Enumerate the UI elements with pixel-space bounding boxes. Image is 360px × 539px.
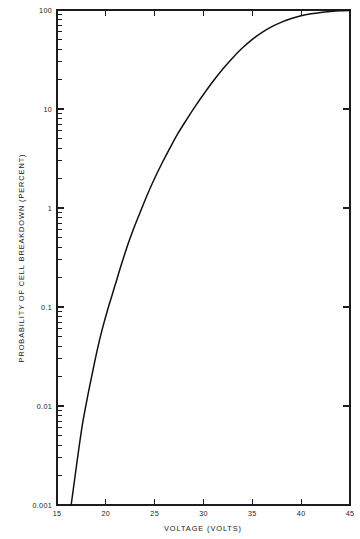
x-axis-ticks [57, 10, 350, 505]
y-axis-ticks [57, 10, 350, 505]
figure-container: 0.0010.010.1110100 15202530354045 VOLTAG… [0, 0, 360, 539]
plot-frame [57, 10, 350, 505]
breakdown-probability-curve [71, 10, 350, 505]
y-tick-label: 0.001 [33, 501, 53, 510]
y-tick-label: 0.01 [37, 402, 52, 411]
y-tick-label: 0.1 [41, 303, 52, 312]
data-series-group [71, 10, 350, 505]
x-axis-tick-labels: 15202530354045 [53, 509, 355, 518]
x-axis-title: VOLTAGE (VOLTS) [164, 524, 242, 533]
breakdown-probability-chart: 0.0010.010.1110100 15202530354045 VOLTAG… [0, 0, 360, 539]
y-axis-title: PROBABILITY OF CELL BREAKDOWN (PERCENT) [17, 154, 26, 363]
x-tick-label: 30 [199, 509, 208, 518]
x-tick-label: 15 [53, 509, 62, 518]
x-tick-label: 20 [102, 509, 111, 518]
x-tick-label: 35 [248, 509, 257, 518]
x-tick-label: 45 [346, 509, 355, 518]
y-axis-tick-labels: 0.0010.010.1110100 [33, 6, 53, 510]
y-tick-label: 100 [39, 6, 52, 15]
x-tick-label: 40 [297, 509, 306, 518]
y-tick-label: 10 [43, 105, 52, 114]
y-tick-label: 1 [48, 204, 52, 213]
x-tick-label: 25 [150, 509, 159, 518]
